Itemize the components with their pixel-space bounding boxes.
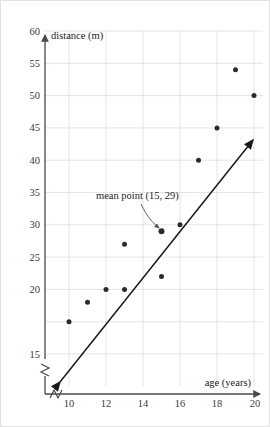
x-axis-break-icon — [50, 390, 62, 398]
data-point-mean — [159, 228, 165, 234]
data-point — [215, 125, 220, 130]
y-tick-label-40: 40 — [30, 155, 41, 166]
data-point — [104, 287, 109, 292]
data-point — [122, 242, 127, 247]
x-tick-label-10: 10 — [64, 398, 75, 409]
x-tick-label-20: 20 — [250, 398, 261, 409]
x-axis-tick-labels: 10 12 14 16 18 20 — [64, 398, 261, 409]
data-point — [159, 274, 164, 279]
y-axis-tick-labels: 60 55 50 45 40 35 30 25 20 15 — [30, 26, 41, 360]
y-tick-label-25: 25 — [30, 252, 41, 263]
plot-canvas: 60 55 50 45 40 35 30 25 20 15 10 12 14 1… — [1, 1, 270, 427]
y-tick-label-45: 45 — [30, 122, 41, 133]
data-point — [85, 300, 90, 305]
y-tick-label-20: 20 — [30, 284, 41, 295]
y-axis-break-icon — [41, 364, 49, 376]
data-point — [67, 319, 72, 324]
y-axis-title: distance (m) — [51, 30, 104, 42]
line-of-best-fit — [60, 140, 253, 382]
data-point — [178, 222, 183, 227]
y-tick-label-55: 55 — [30, 58, 41, 69]
y-tick-label-60: 60 — [30, 26, 41, 37]
x-tick-label-16: 16 — [175, 398, 186, 409]
x-axis-title: age (years) — [205, 377, 252, 389]
y-tick-label-15: 15 — [30, 349, 41, 360]
data-point — [252, 93, 257, 98]
x-tick-label-14: 14 — [138, 398, 149, 409]
x-tick-label-12: 12 — [101, 398, 112, 409]
data-point — [233, 67, 238, 72]
x-tick-label-18: 18 — [212, 398, 223, 409]
gridlines-vertical — [69, 31, 254, 386]
y-tick-label-35: 35 — [30, 187, 41, 198]
mean-point-annotation-arrow — [141, 204, 159, 228]
data-point — [122, 287, 127, 292]
y-tick-label-50: 50 — [30, 90, 41, 101]
data-point — [196, 158, 201, 163]
y-tick-label-30: 30 — [30, 219, 41, 230]
scatter-plot-figure: 60 55 50 45 40 35 30 25 20 15 10 12 14 1… — [0, 0, 270, 427]
mean-point-annotation-label: mean point (15, 29) — [96, 190, 179, 202]
